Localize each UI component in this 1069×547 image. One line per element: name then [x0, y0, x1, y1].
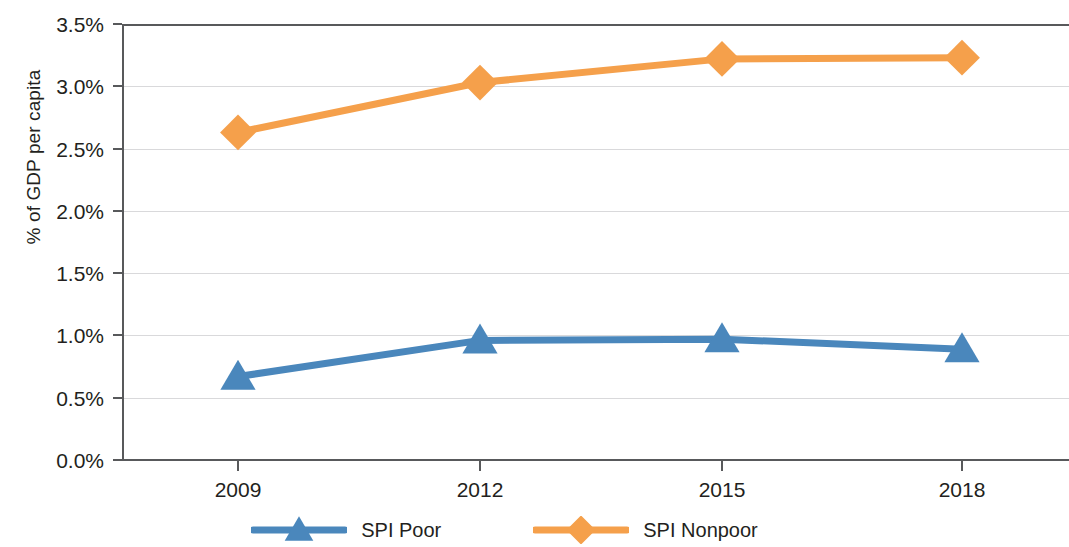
x-axis-tick-label: 2012: [457, 478, 504, 502]
y-axis-tick-label: 3.5%: [12, 14, 104, 35]
x-axis-tick-labels: 2009201220152018: [122, 478, 1069, 508]
y-axis-tick-label: 2.0%: [12, 200, 104, 221]
x-axis-tick-mark: [237, 460, 239, 471]
legend-marker-icon: [533, 516, 629, 544]
series-plot: [122, 24, 1069, 460]
y-axis-tick-label: 1.5%: [12, 263, 104, 284]
y-axis-tick-mark: [113, 397, 122, 399]
series-line: [238, 339, 962, 376]
y-axis-tick-mark: [113, 334, 122, 336]
data-point-marker: [462, 65, 498, 101]
x-axis-tick-label: 2015: [699, 478, 746, 502]
legend-label: SPI Poor: [361, 520, 441, 540]
y-axis-tick-mark: [113, 85, 122, 87]
plot-area: [122, 24, 1069, 460]
y-axis-tick-label: 0.0%: [12, 450, 104, 471]
data-point-marker: [704, 41, 740, 77]
y-axis-tick-labels: 0.0%0.5%1.0%1.5%2.0%2.5%3.0%3.5%: [0, 0, 104, 547]
y-axis-tick-mark: [113, 459, 122, 461]
y-axis-tick-mark: [113, 148, 122, 150]
legend-label: SPI Nonpoor: [643, 520, 758, 540]
legend-item-spi-poor[interactable]: SPI Poor: [251, 516, 441, 544]
x-axis-tick-mark: [479, 460, 481, 471]
series-line: [238, 58, 962, 133]
chart-legend: SPI PoorSPI Nonpoor: [0, 512, 1069, 547]
legend-marker-icon: [251, 516, 347, 544]
y-axis-tick-label: 1.0%: [12, 325, 104, 346]
legend-item-spi-nonpoor[interactable]: SPI Nonpoor: [533, 516, 758, 544]
y-axis-tick-mark: [113, 210, 122, 212]
x-axis-tick-mark: [721, 460, 723, 471]
data-point-marker: [944, 40, 980, 76]
y-axis-tick-mark: [113, 272, 122, 274]
x-axis-tick-label: 2018: [939, 478, 986, 502]
y-axis-tick-mark: [113, 23, 122, 25]
data-point-marker: [220, 114, 256, 150]
y-axis-tick-label: 0.5%: [12, 387, 104, 408]
x-axis-tick-mark: [961, 460, 963, 471]
line-chart: % of GDP per capita 0.0%0.5%1.0%1.5%2.0%…: [0, 0, 1069, 547]
y-axis-tick-label: 2.5%: [12, 138, 104, 159]
y-axis-tick-label: 3.0%: [12, 76, 104, 97]
x-axis-tick-label: 2009: [215, 478, 262, 502]
